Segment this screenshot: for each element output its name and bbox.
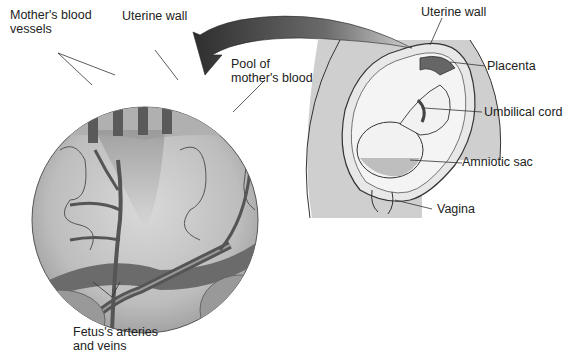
label-line-1: Fetus's arteries bbox=[73, 325, 158, 339]
label-mothers-blood-vessels: Mother's blood vessels bbox=[10, 8, 92, 36]
pregnant-body-illustration bbox=[306, 40, 500, 218]
label-pool-of-mothers-blood: Pool of mother's blood bbox=[231, 57, 313, 85]
label-line-2: and veins bbox=[73, 339, 158, 353]
label-uterine-wall-body: Uterine wall bbox=[421, 5, 486, 19]
label-placenta: Placenta bbox=[487, 59, 536, 73]
diagram-canvas bbox=[0, 0, 568, 359]
label-vagina: Vagina bbox=[437, 202, 475, 216]
label-line-2: vessels bbox=[10, 22, 92, 36]
label-line-1: Mother's blood bbox=[10, 8, 92, 22]
label-amniotic-sac: Amniotic sac bbox=[462, 155, 533, 169]
label-fetus-arteries-veins: Fetus's arteries and veins bbox=[73, 325, 158, 353]
label-line-1: Pool of bbox=[231, 57, 313, 71]
label-line-2: mother's blood bbox=[231, 71, 313, 85]
label-uterine-wall-inset: Uterine wall bbox=[122, 9, 187, 23]
placenta-magnified-inset bbox=[15, 102, 280, 350]
label-umbilical-cord: Umbilical cord bbox=[484, 105, 563, 119]
